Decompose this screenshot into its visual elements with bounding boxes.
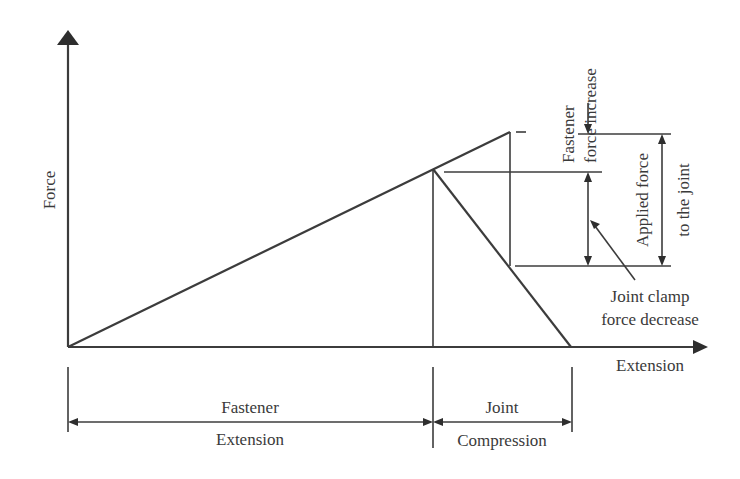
fastener-extension-dimension	[68, 418, 433, 426]
clamp-decrease-arrow	[584, 172, 592, 266]
clamp-decrease-label-line1: Joint clamp	[611, 287, 690, 306]
applied-force-arrow	[658, 134, 666, 266]
fastener-increase-label-line2: force increase	[581, 68, 600, 163]
joint-dimension-label-bottom: Compression	[457, 431, 547, 450]
joint-compression-dimension	[433, 418, 572, 426]
joint-dimension-label-top: Joint	[485, 398, 518, 417]
applied-force-label-line1: Applied force	[633, 153, 652, 247]
extension-axis-label: Extension	[616, 356, 684, 375]
fastener-dimension-label-top: Fastener	[221, 398, 279, 417]
force-axis	[57, 30, 79, 347]
force-axis-label: Force	[40, 171, 59, 210]
clamp-decrease-label-line2: force decrease	[601, 310, 699, 329]
fastener-increase-label-line1: Fastener	[559, 105, 578, 163]
extension-axis	[68, 340, 708, 354]
force-axis-arrow-icon	[57, 30, 79, 45]
applied-force-label-line2: to the joint	[674, 163, 693, 237]
fastener-dimension-label-bottom: Extension	[216, 430, 284, 449]
clamp-decrease-leader	[590, 220, 635, 280]
joint-stiffness-line	[433, 169, 571, 347]
joint-diagram: Force Extension Fastener force in	[0, 0, 740, 479]
fastener-stiffness-line	[68, 132, 510, 347]
extension-axis-arrow-icon	[693, 340, 708, 354]
